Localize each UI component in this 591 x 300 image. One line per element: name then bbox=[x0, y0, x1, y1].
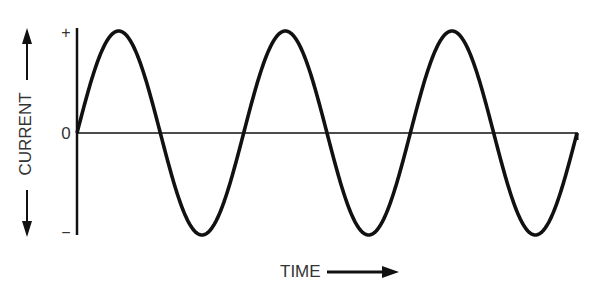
plus-label: + bbox=[61, 24, 70, 41]
arrow-down-icon bbox=[22, 221, 32, 237]
zero-label: 0 bbox=[61, 124, 70, 143]
arrow-up-icon bbox=[22, 28, 32, 44]
x-axis-label-group: TIME bbox=[280, 262, 399, 281]
ac-sine-wave-diagram: CURRENT + 0 − TIME bbox=[0, 0, 591, 300]
x-axis-label: TIME bbox=[280, 262, 321, 281]
y-axis-label: CURRENT bbox=[16, 92, 35, 175]
y-axis-label-group: CURRENT bbox=[16, 28, 35, 237]
minus-label: − bbox=[61, 224, 70, 241]
arrow-right-icon bbox=[382, 266, 399, 278]
